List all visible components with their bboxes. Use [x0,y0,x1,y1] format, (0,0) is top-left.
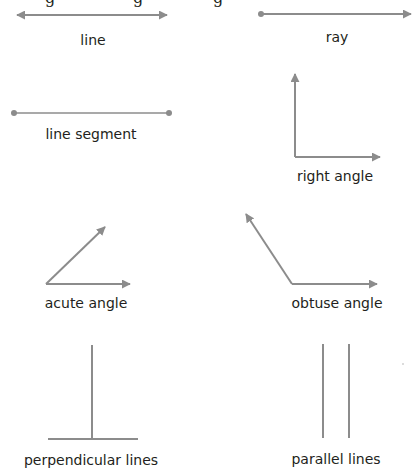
acute-angle-figure [46,227,130,284]
parallel-lines-figure [323,344,349,438]
label-ray: ray [326,30,349,44]
right-angle-figure [295,74,380,157]
label-line: line [80,33,105,47]
line-segment-figure [11,110,172,116]
ray-figure [258,11,411,17]
geometry-figures [0,0,418,475]
perpendicular-lines-figure [48,345,138,439]
label-parallel-lines: parallel lines [291,452,380,466]
label-acute-angle: acute angle [45,296,128,310]
stray-dot [402,363,404,365]
label-obtuse-angle: obtuse angle [291,296,382,310]
obtuse-angle-figure [246,214,377,284]
label-line-segment: line segment [45,127,136,141]
label-perpendicular-lines: perpendicular lines [24,453,158,467]
label-right-angle: right angle [297,169,373,183]
